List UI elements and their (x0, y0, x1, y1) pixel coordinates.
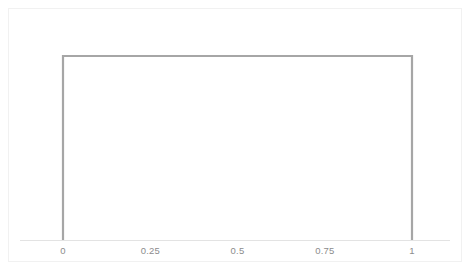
chart-screenshot: 0 0.25 0.5 0.75 1 (0, 0, 474, 273)
uniform-distribution-plot (0, 0, 474, 273)
series-line-uniform-pdf (63, 56, 412, 240)
plot-area: 0 0.25 0.5 0.75 1 (0, 0, 474, 273)
